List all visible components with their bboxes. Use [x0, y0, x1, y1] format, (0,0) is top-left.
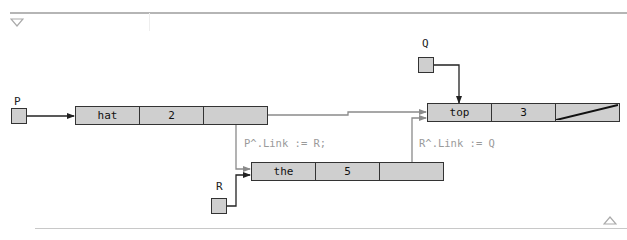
node-the-count: 5	[316, 163, 380, 180]
node-top-count: 3	[492, 104, 556, 121]
pointer-r-label: R	[216, 180, 223, 193]
node-hat-data: hat	[76, 107, 140, 124]
statement-p-link: P^.Link := R;	[244, 137, 326, 149]
node-top-data: top	[428, 104, 492, 121]
node-the-data: the	[252, 163, 316, 180]
node-hat[interactable]: hat 2	[75, 106, 268, 125]
node-the[interactable]: the 5	[251, 162, 444, 181]
node-hat-count: 2	[140, 107, 204, 124]
pointer-r-box[interactable]	[211, 198, 227, 214]
pointer-p-label: P	[14, 95, 21, 108]
pointer-q-box[interactable]	[418, 57, 434, 73]
node-hat-link	[204, 107, 268, 124]
nil-slash-icon	[556, 104, 618, 120]
node-top[interactable]: top 3	[427, 103, 620, 122]
pointer-p-box[interactable]	[11, 108, 27, 124]
node-the-link	[380, 163, 444, 180]
node-top-link-nil	[556, 104, 620, 121]
statement-r-link: R^.Link := Q	[419, 137, 495, 149]
pointer-q-label: Q	[422, 37, 429, 50]
